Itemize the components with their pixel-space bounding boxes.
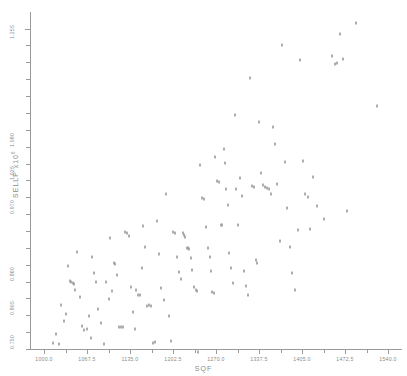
data-point: [146, 304, 148, 307]
data-point: [114, 263, 116, 266]
data-point: [316, 205, 318, 208]
data-point: [346, 210, 348, 213]
y-tick-label: 0.750: [9, 335, 15, 349]
x-axis-title: SQF: [0, 365, 407, 372]
y-tick-minor: [26, 62, 30, 63]
data-point: [73, 283, 75, 286]
data-point: [132, 310, 134, 313]
data-point: [103, 342, 105, 345]
data-point: [111, 290, 113, 293]
data-point: [156, 220, 158, 223]
data-point: [289, 245, 291, 248]
data-point: [113, 262, 115, 265]
data-point: [163, 299, 165, 302]
data-point: [70, 280, 72, 283]
data-point: [210, 269, 212, 272]
data-point: [228, 252, 230, 255]
data-point: [225, 187, 227, 190]
data-point: [211, 291, 213, 294]
y-tick-minor: [26, 332, 30, 333]
x-tick-minor: [238, 349, 239, 353]
data-point: [272, 125, 274, 128]
data-point: [97, 308, 99, 311]
y-tick-minor: [26, 96, 30, 97]
y-tick-label: 0.860: [9, 267, 15, 281]
y-tick-minor: [26, 231, 30, 232]
y-tick-minor: [26, 214, 30, 215]
data-point: [124, 231, 126, 234]
data-point: [55, 333, 57, 336]
data-point: [196, 290, 198, 293]
data-point: [52, 342, 54, 345]
data-point: [209, 255, 211, 258]
data-point: [150, 305, 152, 308]
data-point: [172, 231, 174, 234]
data-point: [109, 237, 111, 240]
data-point: [168, 314, 170, 317]
data-point: [165, 192, 167, 195]
y-tick-minor: [26, 113, 30, 114]
data-point: [243, 269, 245, 272]
data-point: [230, 267, 232, 270]
data-point: [74, 289, 76, 292]
data-point: [207, 247, 209, 250]
data-point: [239, 176, 241, 179]
data-point: [281, 44, 283, 47]
data-point: [331, 54, 333, 57]
y-axis-title: SELLP x106: [11, 129, 19, 219]
data-point: [260, 172, 262, 175]
y-tick-label: 1.255: [9, 25, 15, 39]
y-tick-minor: [26, 164, 30, 165]
data-point: [148, 304, 150, 307]
x-tick-minor: [281, 349, 282, 353]
y-tick-major: [25, 29, 30, 30]
data-point: [186, 246, 188, 249]
data-point: [220, 223, 222, 226]
x-tick-minor: [367, 349, 368, 353]
data-point: [176, 256, 178, 259]
data-point: [253, 185, 255, 188]
data-point: [355, 22, 357, 25]
data-point: [199, 163, 201, 166]
x-tick-minor: [109, 349, 110, 353]
data-point: [135, 289, 137, 292]
x-tick-minor: [66, 349, 67, 353]
data-point: [182, 232, 184, 235]
data-point: [60, 303, 62, 306]
data-point: [130, 285, 132, 288]
data-point: [190, 256, 192, 259]
data-point: [262, 183, 264, 186]
x-tick-label: 1472.5: [336, 356, 353, 362]
x-tick-major: [345, 349, 346, 354]
data-point: [105, 280, 107, 283]
data-point: [274, 142, 276, 145]
y-tick-minor: [26, 197, 30, 198]
data-point: [249, 76, 251, 79]
y-tick-minor: [26, 180, 30, 181]
data-point: [174, 231, 176, 234]
y-tick-minor: [26, 349, 30, 350]
data-point: [279, 239, 281, 242]
x-tick-major: [302, 349, 303, 354]
data-point: [93, 271, 95, 274]
data-point: [255, 258, 257, 261]
data-point: [86, 327, 88, 330]
x-tick-minor: [324, 349, 325, 353]
x-tick-label: 1540.0: [379, 356, 396, 362]
data-point: [152, 341, 154, 344]
data-point: [79, 296, 81, 299]
y-tick-minor: [26, 298, 30, 299]
data-point: [76, 251, 78, 254]
data-point: [81, 325, 83, 328]
data-point: [183, 233, 185, 236]
data-point: [258, 120, 260, 123]
data-point: [134, 328, 136, 331]
data-point: [297, 228, 299, 231]
y-tick-minor: [26, 315, 30, 316]
y-axis-exponent: 6: [11, 150, 16, 154]
data-point: [141, 266, 143, 269]
data-point: [88, 315, 90, 318]
data-point: [323, 217, 325, 220]
y-tick-minor: [26, 130, 30, 131]
y-axis-line: [30, 12, 31, 350]
